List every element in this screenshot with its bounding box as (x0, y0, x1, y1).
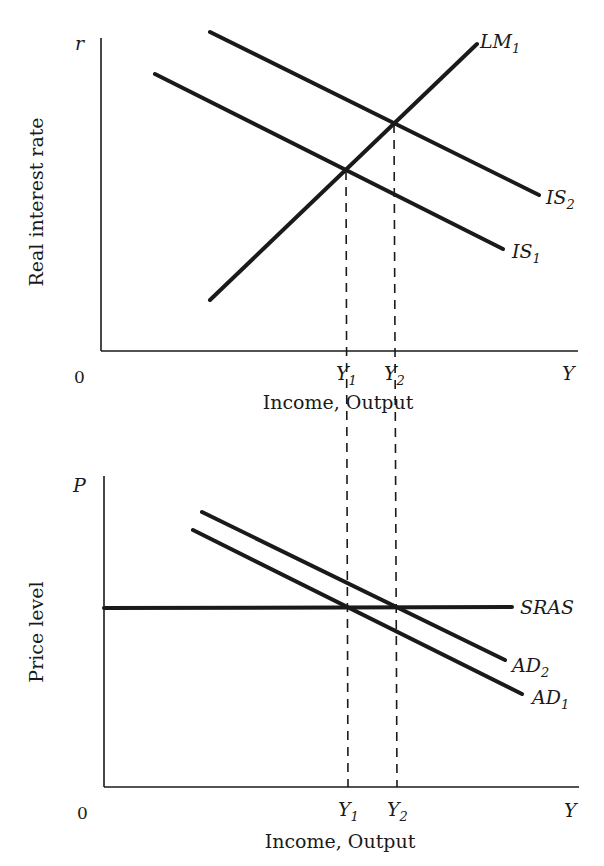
figure-canvas: LM1IS1IS2 Y1Y2 r 0 Y Real interest rate … (0, 0, 604, 866)
top-origin-label: 0 (74, 367, 85, 387)
bottom-tick-y2: Y2 (387, 798, 408, 824)
is1-curve (155, 74, 503, 249)
lm1-curve (210, 44, 477, 300)
ad-as-chart: SRASAD2AD1 Y1Y2 P 0 Y Price level Income… (25, 474, 579, 852)
bottom-origin-label: 0 (77, 803, 88, 823)
bottom-y-axis-symbol: P (72, 474, 87, 496)
is-lm-chart: LM1IS1IS2 Y1Y2 r 0 Y Real interest rate … (25, 30, 578, 413)
is2-curve (210, 32, 539, 195)
top-x-axis-symbol: Y (562, 362, 577, 384)
bottom-x-axis-label: Income, Output (265, 830, 416, 852)
bottom-y-axis-label: Price level (25, 581, 47, 682)
bottom-curves: SRASAD2AD1 (104, 512, 574, 712)
sras-label: SRAS (520, 596, 574, 618)
y1-dashed-guide (346, 171, 348, 787)
ad1-curve (193, 530, 522, 694)
top-y-axis-label: Real interest rate (25, 117, 47, 286)
y2-dashed-guide (394, 124, 397, 787)
sras-curve (104, 607, 512, 608)
ad1-label: AD1 (530, 686, 569, 712)
top-y-axis-symbol: r (75, 32, 86, 54)
is1-label: IS1 (511, 240, 541, 266)
bottom-axes (104, 476, 579, 787)
bottom-x-ticks: Y1Y2 (338, 798, 408, 824)
ad2-curve (202, 512, 505, 660)
dashed-guides (346, 124, 397, 787)
lm1-label: LM1 (479, 30, 520, 56)
bottom-x-axis-symbol: Y (564, 799, 579, 821)
is-lm-ad-diagram: LM1IS1IS2 Y1Y2 r 0 Y Real interest rate … (0, 0, 604, 866)
ad2-label: AD2 (510, 654, 549, 680)
bottom-tick-y1: Y1 (338, 798, 359, 824)
is2-label: IS2 (545, 186, 575, 212)
top-curves: LM1IS1IS2 (155, 30, 575, 300)
top-x-axis-label: Income, Output (263, 391, 414, 413)
